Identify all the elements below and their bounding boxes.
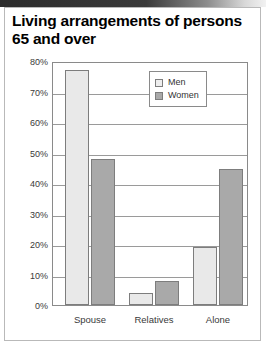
y-tick-70: 70%: [10, 88, 48, 98]
x-tick-alone: Alone: [206, 314, 230, 325]
y-tick-10: 10%: [10, 271, 48, 281]
x-tick-spouse: Spouse: [74, 314, 106, 325]
plot-wrapper: 0% 10% 20% 30% 40% 50% 60% 70% 80%: [10, 58, 256, 330]
chart-figure: Living arrangements of persons 65 and ov…: [0, 0, 266, 348]
x-axis: Spouse Relatives Alone: [52, 62, 248, 330]
y-tick-20: 20%: [10, 240, 48, 250]
y-axis: 0% 10% 20% 30% 40% 50% 60% 70% 80%: [10, 62, 48, 306]
y-tick-80: 80%: [10, 57, 48, 67]
y-tick-50: 50%: [10, 149, 48, 159]
y-tick-30: 30%: [10, 210, 48, 220]
y-tick-0: 0%: [10, 301, 48, 311]
y-tick-60: 60%: [10, 118, 48, 128]
y-tick-40: 40%: [10, 179, 48, 189]
x-tick-relatives: Relatives: [134, 314, 173, 325]
chart-title: Living arrangements of persons 65 and ov…: [12, 12, 252, 49]
page-scan-edge: [0, 0, 266, 7]
